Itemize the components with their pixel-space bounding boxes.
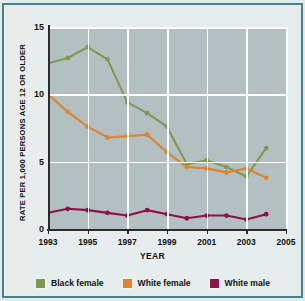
- vertical-gridline: [246, 27, 248, 229]
- vertical-gridline: [207, 27, 209, 229]
- vertical-gridline: [88, 27, 90, 229]
- legend-swatch-icon: [209, 278, 220, 289]
- x-tick-label: 1997: [118, 237, 137, 247]
- legend-label: White female: [138, 278, 191, 288]
- x-tick-label: 2003: [237, 237, 256, 247]
- x-tick-mark: [127, 229, 128, 234]
- x-tick-label: 1995: [78, 237, 97, 247]
- x-axis-title: YEAR: [4, 251, 301, 261]
- vertical-gridline: [167, 27, 169, 229]
- x-tick-mark: [88, 229, 89, 234]
- horizontal-gridline: [48, 27, 286, 29]
- legend-label: Black female: [51, 278, 104, 288]
- y-axis-title: RATE PER 1,000 PERSONS AGE 12 OR OLDER: [18, 35, 27, 231]
- y-tick-label: 10: [34, 89, 44, 99]
- x-tick-mark: [286, 229, 287, 234]
- y-tick-label: 5: [39, 157, 44, 167]
- gridlines: [48, 27, 286, 229]
- x-tick-label: 2005: [277, 237, 296, 247]
- y-tick-label: 0: [39, 224, 44, 234]
- horizontal-gridline: [48, 162, 286, 164]
- legend-item[interactable]: White female: [122, 278, 191, 289]
- legend-item[interactable]: White male: [209, 278, 270, 289]
- x-tick-mark: [167, 229, 168, 234]
- plot-area: [48, 27, 286, 229]
- vertical-gridline: [286, 27, 288, 229]
- chart-frame: RATE PER 1,000 PERSONS AGE 12 OR OLDER 0…: [2, 3, 303, 298]
- x-tick-label: 2001: [197, 237, 216, 247]
- chart-figure: RATE PER 1,000 PERSONS AGE 12 OR OLDER 0…: [0, 0, 305, 301]
- chart-legend: Black femaleWhite femaleWhite male: [12, 271, 293, 295]
- y-tick-label: 15: [34, 22, 44, 32]
- x-tick-mark: [246, 229, 247, 234]
- chart-title: [4, 3, 301, 9]
- vertical-gridline: [127, 27, 129, 229]
- legend-item[interactable]: Black female: [35, 278, 104, 289]
- y-axis-line: [48, 25, 50, 231]
- legend-label: White male: [225, 278, 270, 288]
- x-tick-mark: [207, 229, 208, 234]
- x-tick-mark: [48, 229, 49, 234]
- legend-swatch-icon: [122, 278, 133, 289]
- x-tick-label: 1999: [158, 237, 177, 247]
- horizontal-gridline: [48, 94, 286, 96]
- x-tick-label: 1993: [39, 237, 58, 247]
- legend-swatch-icon: [35, 278, 46, 289]
